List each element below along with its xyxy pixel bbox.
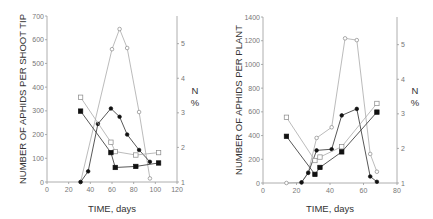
x-axis-label: TIME, days (306, 203, 354, 214)
y2-axis-label-n: N (192, 85, 199, 96)
right-chart-panel: 020040060080010001200140002040608012345T… (233, 14, 420, 215)
y2-axis-label-percent: % (191, 97, 200, 108)
data-point-square (313, 172, 317, 176)
x-tick-label: 20 (65, 186, 73, 193)
y2-tick-label: 4 (401, 76, 405, 83)
data-point-square (313, 158, 317, 162)
y-tick-label: 200 (248, 156, 260, 163)
data-point-circle (137, 148, 141, 152)
y2-axis-label-n: N (412, 85, 419, 96)
y-tick-label: 0 (40, 179, 44, 186)
data-point-square (109, 150, 113, 154)
data-point-circle (343, 37, 347, 41)
data-point-square (318, 165, 322, 169)
data-point-circle (137, 110, 141, 114)
y-tick-label: 400 (248, 132, 260, 139)
y2-tick-label: 4 (181, 75, 185, 82)
data-point-circle (118, 115, 122, 119)
data-point-circle (330, 125, 334, 129)
data-point-square (78, 109, 82, 113)
data-point-circle (340, 114, 344, 118)
data-point-circle (110, 47, 114, 51)
left-chart-panel: 0100200300400500600700020406080100120123… (17, 13, 200, 215)
y2-tick-label: 5 (401, 41, 405, 48)
data-point-circle (125, 46, 129, 50)
y-tick-label: 400 (32, 84, 44, 91)
series-line (286, 103, 376, 160)
x-tick-label: 80 (130, 186, 138, 193)
y-tick-label: 800 (248, 85, 260, 92)
data-point-circle (368, 152, 372, 156)
data-point-square (109, 140, 113, 144)
y2-axis-label-percent: % (411, 97, 420, 108)
data-point-square (156, 161, 160, 165)
y-tick-label: 300 (32, 107, 44, 114)
data-point-square (134, 153, 138, 157)
x-tick-label: 60 (108, 186, 116, 193)
y-tick-label: 600 (248, 108, 260, 115)
y2-tick-label: 2 (181, 144, 185, 151)
data-point-circle (148, 177, 152, 181)
y-tick-label: 200 (32, 131, 44, 138)
x-tick-label: 60 (360, 187, 368, 194)
y2-tick-label: 1 (401, 180, 405, 187)
y2-tick-label: 1 (181, 179, 185, 186)
y-tick-label: 700 (32, 13, 44, 20)
y-tick-label: 100 (32, 155, 44, 162)
series-line (81, 108, 150, 182)
x-tick-label: 120 (171, 186, 183, 193)
y2-tick-label: 3 (181, 109, 185, 116)
data-point-square (113, 149, 117, 153)
data-point-circle (355, 107, 359, 111)
data-point-circle (375, 180, 379, 184)
x-tick-label: 0 (45, 186, 49, 193)
data-point-square (340, 150, 344, 154)
data-point-square (318, 155, 322, 159)
data-point-square (375, 101, 379, 105)
data-point-square (375, 110, 379, 114)
data-point-circle (315, 149, 319, 153)
data-point-square (284, 115, 288, 119)
x-tick-label: 0 (261, 187, 265, 194)
data-point-circle (355, 38, 359, 42)
data-point-circle (86, 170, 90, 174)
y-tick-label: 500 (32, 60, 44, 67)
data-point-square (340, 144, 344, 148)
data-point-circle (375, 170, 379, 174)
y-tick-label: 600 (32, 36, 44, 43)
x-tick-label: 40 (86, 186, 94, 193)
data-point-circle (315, 136, 319, 140)
x-tick-label: 20 (293, 187, 301, 194)
data-point-circle (79, 180, 83, 184)
x-tick-label: 80 (393, 187, 401, 194)
y-axis-label: NUMBER OF APHIDS PER SHOOT TIP (17, 14, 28, 184)
y-tick-label: 1400 (244, 14, 260, 21)
series-line (286, 38, 376, 183)
data-point-circle (125, 133, 129, 137)
data-point-square (284, 134, 288, 138)
figure: 0100200300400500600700020406080100120123… (0, 0, 433, 219)
x-tick-label: 100 (149, 186, 161, 193)
data-point-square (156, 150, 160, 154)
y-tick-label: 1000 (244, 61, 260, 68)
y-tick-label: 1200 (244, 37, 260, 44)
data-point-square (134, 164, 138, 168)
data-point-circle (148, 160, 152, 164)
data-point-circle (300, 181, 304, 185)
data-point-circle (118, 27, 122, 31)
x-tick-label: 40 (326, 187, 334, 194)
y2-tick-label: 5 (181, 40, 185, 47)
y2-tick-label: 3 (401, 110, 405, 117)
data-point-circle (368, 175, 372, 179)
y2-tick-label: 2 (401, 145, 405, 152)
data-point-circle (285, 181, 289, 185)
x-axis-label: TIME, days (88, 203, 136, 214)
series-line (81, 97, 159, 155)
data-point-circle (306, 171, 310, 175)
data-point-square (78, 95, 82, 99)
data-point-square (113, 165, 117, 169)
y-axis-label: NUMBER OF APHIDS PER PLANT (233, 25, 244, 175)
data-point-circle (109, 107, 113, 111)
y-tick-label: 0 (256, 180, 260, 187)
